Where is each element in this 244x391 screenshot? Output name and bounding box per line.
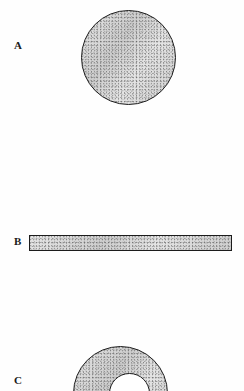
figure-canvas: A B C D xyxy=(0,0,244,391)
solid-disc-plan-view xyxy=(81,10,176,105)
panel-label-a: A xyxy=(14,40,22,51)
panel-b: B xyxy=(0,112,244,170)
panel-d: D xyxy=(0,280,244,391)
panel-c: C xyxy=(0,170,244,280)
panel-a: A xyxy=(0,0,244,112)
